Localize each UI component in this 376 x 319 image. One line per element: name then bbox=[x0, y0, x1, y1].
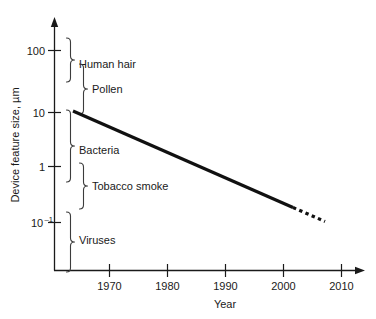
bracket-pollen bbox=[80, 64, 88, 114]
y-tick-labels: 100 10 1 10 –1 bbox=[27, 45, 53, 229]
x-tick-label-1970: 1970 bbox=[97, 280, 121, 292]
group-label-human-hair: Human hair bbox=[79, 58, 136, 70]
y-tick-label-0-1-exponent: –1 bbox=[45, 215, 53, 224]
y-axis-title: Device feature size, µm bbox=[9, 87, 21, 202]
y-tick-label-1: 1 bbox=[39, 161, 45, 173]
bracket-human-hair bbox=[67, 38, 75, 82]
chart-canvas: 100 10 1 10 –1 1970 1980 1990 2000 2010 … bbox=[0, 0, 376, 319]
x-tick-label-1990: 1990 bbox=[213, 280, 237, 292]
x-axis-title: Year bbox=[214, 298, 237, 310]
trend-line-solid bbox=[73, 111, 293, 208]
group-label-tobacco-smoke: Tobacco smoke bbox=[92, 180, 168, 192]
trend-line-dashed bbox=[293, 208, 325, 222]
category-brackets: Human hair Pollen Bacteria Tobacco smoke… bbox=[67, 38, 169, 272]
group-label-bacteria: Bacteria bbox=[79, 144, 120, 156]
x-axis-arrow-icon bbox=[355, 267, 365, 274]
x-tick-label-1980: 1980 bbox=[155, 280, 179, 292]
bracket-tobacco-smoke bbox=[80, 163, 88, 209]
bracket-bacteria bbox=[67, 110, 75, 182]
y-axis-arrow-icon bbox=[51, 17, 58, 27]
bracket-viruses bbox=[67, 212, 75, 272]
y-tick-label-0-1-base: 10 bbox=[31, 217, 43, 229]
x-tick-label-2000: 2000 bbox=[271, 280, 295, 292]
group-label-viruses: Viruses bbox=[79, 234, 116, 246]
x-tick-label-2010: 2010 bbox=[329, 280, 353, 292]
x-tick-labels: 1970 1980 1990 2000 2010 bbox=[97, 280, 353, 292]
group-label-pollen: Pollen bbox=[92, 83, 123, 95]
y-tick-label-100: 100 bbox=[27, 45, 45, 57]
y-tick-label-10: 10 bbox=[33, 107, 45, 119]
chart-figure: 100 10 1 10 –1 1970 1980 1990 2000 2010 … bbox=[0, 0, 376, 319]
